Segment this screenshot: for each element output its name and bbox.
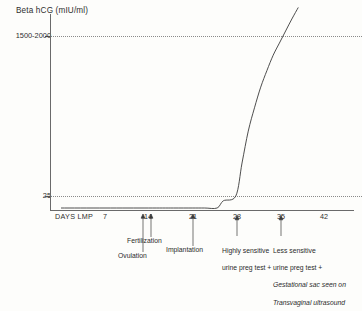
annotation-less-sensitive-line2: urine preg test + [273, 264, 346, 273]
x-tick-label-28: 28 [233, 212, 241, 221]
annotation-ovulation: Ovulation [118, 252, 147, 261]
x-tick-label-7: 7 [103, 212, 107, 221]
annotation-implantation: Implantation [166, 246, 203, 255]
annotation-less-sensitive: Less sensitive urine preg test + Gestati… [273, 238, 346, 311]
hcg-curve-path [61, 8, 298, 209]
annotation-fertilization: Fertilization [127, 237, 162, 246]
annotation-less-sensitive-line3: Gestational sac seen on [273, 281, 346, 290]
annotation-less-sensitive-line4: Transvaginal ultrasound [273, 299, 346, 308]
gridline-lower [50, 196, 362, 197]
x-axis-line [50, 210, 354, 211]
annotation-highly-sensitive-line2: urine preg test + [222, 264, 271, 273]
x-tick-label-21: 21 [189, 212, 197, 221]
x-tick-label-14: 14 [144, 212, 152, 221]
y-axis-title: Beta hCG (mIU/ml) [16, 6, 88, 15]
annotation-less-sensitive-line1: Less sensitive [273, 247, 346, 256]
annotation-highly-sensitive: Highly sensitive urine preg test + [222, 238, 271, 281]
gridline-upper [50, 36, 362, 37]
x-tick-label-42: 42 [320, 212, 328, 221]
annotation-highly-sensitive-line1: Highly sensitive [222, 247, 271, 256]
y-tick-label-upper: 1500-2000 [16, 31, 51, 40]
y-axis-line [50, 14, 51, 210]
x-axis-name: DAYS LMP [55, 212, 93, 221]
x-tick-label-35: 35 [277, 212, 285, 221]
